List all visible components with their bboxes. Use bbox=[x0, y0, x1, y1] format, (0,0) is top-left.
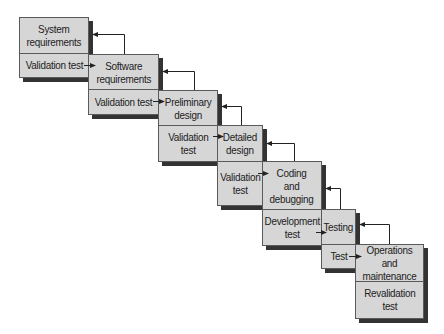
feedback-arrow-2 bbox=[163, 72, 195, 91]
feedback-arrow-4 bbox=[267, 144, 295, 162]
waterfall-diagram: System requirements Validation test Soft… bbox=[0, 0, 444, 334]
feedback-arrow-3 bbox=[222, 107, 242, 126]
feedback-arrow-5 bbox=[326, 189, 341, 210]
feedback-arrow-1 bbox=[93, 35, 125, 55]
connector-lines bbox=[0, 0, 444, 334]
feedback-arrow-6 bbox=[360, 225, 390, 245]
